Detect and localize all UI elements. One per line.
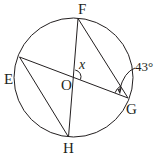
label-G: G: [126, 101, 137, 117]
label-angle-x: x: [78, 57, 86, 72]
label-F: F: [78, 1, 86, 17]
label-O: O: [61, 77, 72, 93]
label-H: H: [63, 140, 74, 155]
segment-EH: [20, 57, 69, 137]
circle-diagram: F E O G H x 43°: [0, 0, 158, 155]
segment-EG: [20, 57, 129, 98]
label-angle-43: 43°: [135, 59, 153, 74]
label-E: E: [4, 71, 13, 87]
